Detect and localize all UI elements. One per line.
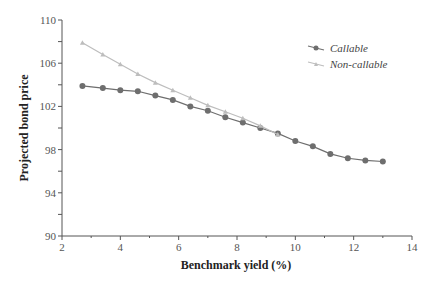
data-point [118, 62, 123, 67]
data-point [292, 138, 298, 144]
data-point [170, 97, 176, 103]
data-point [222, 114, 228, 120]
data-point [187, 103, 193, 109]
y-tick-label: 98 [45, 144, 57, 156]
data-point [100, 85, 106, 91]
chart: 9094981021061102468101214 Benchmark yiel… [0, 0, 436, 283]
legend-label: Callable [330, 42, 368, 54]
y-tick-label: 90 [45, 230, 57, 242]
y-tick-label: 94 [45, 187, 57, 199]
x-tick-label: 12 [348, 241, 359, 253]
data-point [362, 157, 368, 163]
x-tick-label: 2 [59, 241, 65, 253]
data-point [205, 108, 211, 114]
legend: CallableNon-callable [308, 42, 388, 70]
data-point [135, 72, 140, 77]
x-tick-label: 4 [118, 241, 124, 253]
data-point [345, 155, 351, 161]
data-point [327, 151, 333, 157]
data-point [117, 87, 123, 93]
data-point [152, 93, 158, 99]
x-tick-label: 10 [290, 241, 302, 253]
x-axis-label: Benchmark yield (%) [181, 258, 292, 272]
y-axis-label: Projected bond price [17, 74, 31, 182]
y-tick-label: 110 [40, 14, 57, 26]
series-line-callable [82, 86, 382, 162]
y-tick-label: 106 [40, 57, 57, 69]
x-tick-label: 6 [176, 241, 182, 253]
data-point [135, 88, 141, 94]
data-point [80, 40, 85, 45]
data-point [100, 52, 105, 57]
data-point [380, 158, 386, 164]
x-tick-label: 14 [407, 241, 419, 253]
y-tick-label: 102 [40, 100, 57, 112]
legend-marker [314, 46, 319, 51]
data-point [310, 143, 316, 149]
data-point [240, 120, 246, 126]
legend-label: Non-callable [329, 58, 388, 70]
data-point [79, 83, 85, 89]
x-tick-label: 8 [234, 241, 240, 253]
